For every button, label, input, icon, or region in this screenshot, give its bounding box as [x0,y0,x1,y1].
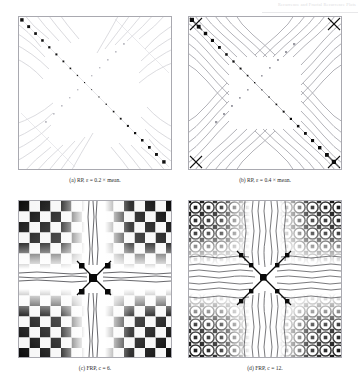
panel-a: (a) RP, ε = 0.2 × mean. [18,16,172,183]
plot-b-rp-eps-0-4 [188,16,342,170]
caption-d: (d) FRP, c = 12. [188,365,342,371]
page-header: Recurrence and Fractal Recurrence Plots [0,2,360,14]
panel-b: (b) RP, ε = 0.4 × mean. [188,16,342,183]
panel-row-bottom: (c) FRP, c = 6. [0,200,360,388]
figure-recurrence-plots: (a) RP, ε = 0.2 × mean. [0,14,360,390]
caption-c: (c) FRP, c = 6. [18,365,172,371]
plot-a-svg [19,17,171,169]
panel-row-top: (a) RP, ε = 0.2 × mean. [0,14,360,196]
caption-b: (b) RP, ε = 0.4 × mean. [188,177,342,183]
header-rule [262,12,358,13]
plot-c-frp-c-6 [18,200,172,358]
plot-d-svg [189,201,341,357]
panel-d: (d) FRP, c = 12. [188,200,342,371]
plot-d-frp-c-12 [188,200,342,358]
plot-c-svg [19,201,171,357]
panel-c: (c) FRP, c = 6. [18,200,172,371]
plot-a-rp-eps-0-2 [18,16,172,170]
caption-a: (a) RP, ε = 0.2 × mean. [18,177,172,183]
plot-b-svg [189,17,341,169]
header-running-title: Recurrence and Fractal Recurrence Plots [278,2,356,7]
